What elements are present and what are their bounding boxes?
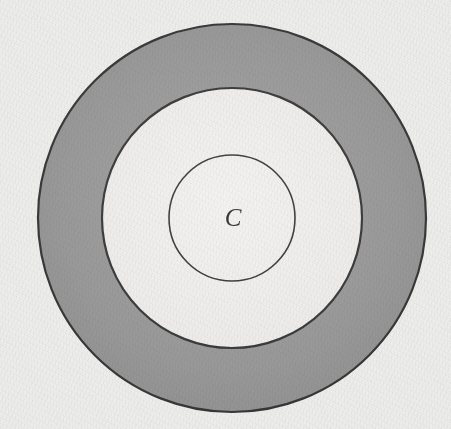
center-point-label: C bbox=[225, 204, 242, 231]
figure-canvas: C bbox=[0, 0, 451, 429]
concentric-circles-diagram: C bbox=[0, 0, 451, 429]
